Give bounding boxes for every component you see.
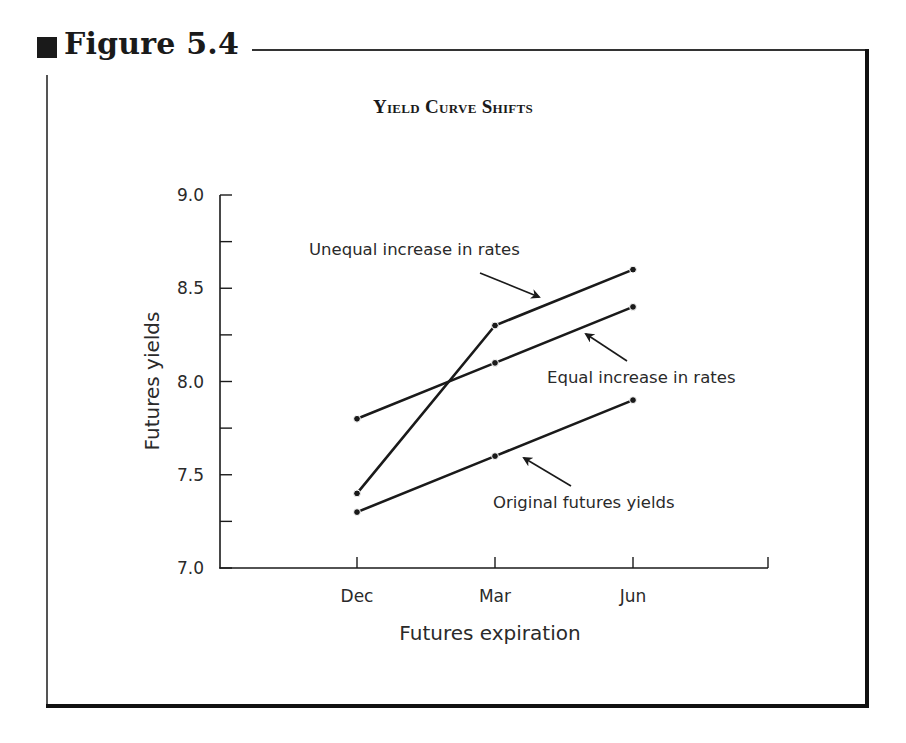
x-axis-tick-labels: DecMarJun <box>341 586 647 606</box>
data-point <box>492 322 499 329</box>
x-tick-label: Dec <box>341 586 374 606</box>
x-axis-label: Futures expiration <box>399 621 580 645</box>
y-tick-label: 7.5 <box>177 465 204 485</box>
arrow-icon <box>586 334 627 361</box>
annotation-original: Original futures yields <box>493 458 675 512</box>
annotation-unequal: Unequal increase in rates <box>309 240 539 297</box>
arrow-icon <box>480 273 539 297</box>
data-point <box>492 360 499 367</box>
data-point <box>354 415 361 422</box>
y-axis-tick-labels: 7.07.58.08.59.0 <box>177 185 204 578</box>
x-axis-ticks <box>357 557 768 568</box>
y-axis-label: Futures yields <box>140 312 164 451</box>
data-point <box>630 266 637 273</box>
y-axis-ticks <box>220 195 232 568</box>
line-chart: 7.07.58.08.59.0 DecMarJun Futures expira… <box>0 0 906 743</box>
x-tick-label: Mar <box>479 586 511 606</box>
annotation-equal-text: Equal increase in rates <box>547 368 736 387</box>
y-tick-label: 8.0 <box>177 372 204 392</box>
annotation-equal: Equal increase in rates <box>547 334 736 387</box>
data-point <box>630 304 637 311</box>
annotation-original-text: Original futures yields <box>493 493 675 512</box>
data-point <box>354 490 361 497</box>
data-point <box>354 509 361 516</box>
y-tick-label: 7.0 <box>177 558 204 578</box>
annotation-unequal-text: Unequal increase in rates <box>309 240 520 259</box>
y-tick-label: 8.5 <box>177 278 204 298</box>
data-point <box>630 397 637 404</box>
series-lines <box>354 266 637 515</box>
arrow-icon <box>524 458 571 486</box>
data-point <box>492 453 499 460</box>
y-tick-label: 9.0 <box>177 185 204 205</box>
x-tick-label: Jun <box>619 586 647 606</box>
series-equal-increase-in-rates <box>354 304 637 423</box>
